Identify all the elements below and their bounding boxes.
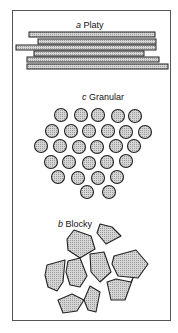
panel-platy-label: a Platy: [76, 20, 104, 30]
plate: [38, 39, 156, 44]
plate: [34, 51, 144, 56]
plate: [16, 45, 156, 50]
plate: [29, 32, 155, 37]
panel-granular: c Granular: [35, 92, 152, 199]
platy-plates: [16, 32, 168, 69]
blocks: [45, 224, 148, 313]
panel-blocky-label: b Blocky: [58, 219, 93, 229]
soil-structure-diagram: a Platy c Granular b Blocky: [0, 0, 178, 333]
panel-blocky: b Blocky: [45, 219, 148, 313]
panel-platy: a Platy: [16, 20, 168, 69]
granules: [35, 109, 152, 199]
plate: [27, 64, 168, 69]
plate: [27, 57, 159, 62]
panel-granular-label: c Granular: [82, 92, 124, 102]
